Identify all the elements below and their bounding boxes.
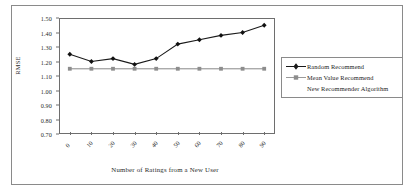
data-point-marker — [90, 67, 94, 71]
x-axis-tick-label: 30 — [128, 139, 137, 148]
x-axis-tick-label: 80 — [236, 139, 245, 148]
y-axis-tick-label: 1.10 — [41, 73, 52, 80]
legend-label: New Recommender Algorithm — [307, 85, 388, 92]
data-point-marker — [111, 56, 116, 61]
legend-item-random-recommend: Random Recommend — [285, 61, 400, 72]
chart-legend: Random Recommend Mean Value Recommend Ne… — [281, 57, 403, 98]
data-point-marker — [176, 67, 180, 71]
x-axis-tick-mark — [199, 132, 200, 135]
x-axis-tick-mark — [156, 132, 157, 135]
legend-item-new-recommender-algorithm: New Recommender Algorithm — [285, 83, 400, 94]
y-axis-tick-label: 1.20 — [41, 58, 52, 65]
data-point-marker — [133, 67, 137, 71]
plot-area-wrapper — [59, 18, 275, 134]
x-axis-tick-label: 40 — [150, 139, 159, 148]
data-point-marker — [198, 67, 202, 71]
data-point-marker — [67, 52, 72, 57]
data-point-marker — [89, 59, 94, 64]
data-point-marker — [240, 30, 245, 35]
x-axis-title: Number of Ratings from a New User — [40, 166, 290, 173]
x-axis-tick-label: 50 — [171, 139, 180, 148]
x-axis-tick-mark — [135, 132, 136, 135]
data-point-marker — [132, 62, 137, 67]
y-axis-tick-labels: 1.501.401.301.201.101.000.900.800.70 — [20, 18, 56, 134]
data-point-marker — [219, 33, 224, 38]
data-point-marker — [197, 37, 202, 42]
x-axis-tick-label: 0 — [63, 142, 70, 149]
series-line — [70, 25, 264, 64]
y-axis-tick-label: 0.80 — [41, 116, 52, 123]
x-axis-tick-label: 70 — [215, 139, 224, 148]
legend-label: Mean Value Recommend — [307, 74, 373, 81]
y-axis-tick-label: 1.00 — [41, 87, 52, 94]
y-axis-tick-label: 0.90 — [41, 102, 52, 109]
data-point-marker — [241, 67, 245, 71]
legend-item-mean-value-recommend: Mean Value Recommend — [285, 72, 400, 83]
x-axis-tick-labels: 0102030405060708090 — [59, 136, 275, 154]
chart-figure: RMSE 1.501.401.301.201.101.000.900.800.7… — [0, 0, 414, 194]
x-axis-tick-mark — [264, 132, 265, 135]
square-marker-icon — [285, 72, 307, 83]
x-axis-tick-label: 60 — [193, 139, 202, 148]
x-axis-tick-mark — [70, 132, 71, 135]
data-point-marker — [111, 67, 115, 71]
y-axis-tick-label: 1.50 — [41, 15, 52, 22]
series-canvas — [59, 18, 275, 134]
data-point-marker — [262, 67, 266, 71]
x-axis-tick-mark — [91, 132, 92, 135]
legend-label: Random Recommend — [307, 63, 364, 70]
data-point-marker — [154, 67, 158, 71]
data-point-marker — [262, 23, 267, 28]
x-axis-tick-mark — [243, 132, 244, 135]
y-axis-tick-label: 1.30 — [41, 44, 52, 51]
x-axis-tick-mark — [221, 132, 222, 135]
y-axis-tick-label: 1.40 — [41, 29, 52, 36]
x-axis-tick-mark — [178, 132, 179, 135]
data-point-marker — [68, 67, 72, 71]
data-point-marker — [219, 67, 223, 71]
x-axis-tick-mark — [113, 132, 114, 135]
y-axis-tick-label: 0.70 — [41, 131, 52, 138]
diamond-marker-icon — [285, 61, 307, 72]
x-axis-tick-label: 90 — [258, 139, 267, 148]
x-axis-tick-label: 10 — [85, 139, 94, 148]
x-axis-tick-label: 20 — [107, 139, 116, 148]
